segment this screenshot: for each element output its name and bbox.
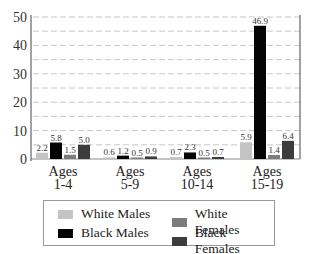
bar-value-label: 1.5	[64, 145, 76, 155]
bar-value-label: 6.4	[282, 131, 294, 141]
bar-value-label: 0.9	[145, 146, 157, 156]
bar-value-label: 1.2	[117, 146, 128, 156]
bar	[145, 156, 157, 159]
bar-value-label: 0.5	[131, 148, 143, 158]
legend-swatch	[172, 237, 187, 246]
bar-value-label: 0.7	[170, 147, 182, 157]
legend-label: Black Females	[195, 225, 274, 254]
y-tick-label: 40	[13, 38, 27, 53]
bar	[198, 158, 210, 160]
bar	[50, 143, 62, 159]
bar	[268, 155, 280, 159]
legend-swatch	[58, 229, 73, 238]
bar-value-label: 0.6	[103, 147, 115, 157]
bar-value-label: 5.0	[78, 135, 90, 145]
legend-label: Black Males	[81, 225, 149, 241]
x-tick-label: 10-14	[181, 177, 214, 192]
bar	[240, 142, 252, 159]
bar	[170, 157, 182, 159]
bar	[254, 26, 266, 159]
y-tick-label: 30	[13, 67, 27, 82]
legend-label: White Males	[81, 206, 150, 222]
x-tick-label: 15-19	[251, 177, 284, 192]
bar	[78, 145, 90, 159]
y-tick-label: 50	[13, 10, 27, 25]
x-axis-labels: Ages1-4Ages5-9Ages10-14Ages15-19	[49, 164, 284, 192]
y-tick-label: 20	[13, 95, 27, 110]
bar	[103, 157, 115, 159]
bar-value-label: 5.9	[240, 132, 252, 142]
bar-value-label: 2.3	[184, 142, 196, 152]
bar	[36, 153, 48, 159]
bar-value-label: 2.2	[36, 143, 47, 153]
legend-item-black-males: Black Males	[58, 225, 149, 241]
bars: 2.25.81.55.00.61.20.50.90.72.30.50.75.94…	[36, 16, 294, 159]
bar-value-label: 0.7	[212, 147, 224, 157]
bar-value-label: 0.5	[198, 148, 210, 158]
x-tick-label: 1-4	[54, 177, 73, 192]
bar-value-label: 46.9	[252, 16, 268, 26]
bar	[282, 141, 294, 159]
y-tick-label: 10	[13, 124, 27, 139]
legend-item-black-females: Black Females	[172, 225, 274, 254]
bar	[131, 158, 143, 160]
bar	[64, 155, 76, 159]
bar-value-label: 1.4	[268, 145, 280, 155]
legend-item-white-males: White Males	[58, 206, 150, 222]
bar	[184, 152, 196, 159]
bar	[212, 157, 224, 159]
legend-swatch	[58, 210, 73, 219]
y-tick-label: 0	[20, 152, 27, 167]
bar-value-label: 5.8	[50, 133, 62, 143]
x-tick-label: 5-9	[121, 177, 140, 192]
bar	[117, 156, 129, 159]
legend: White Males White Females Black Males Bl…	[43, 200, 275, 246]
